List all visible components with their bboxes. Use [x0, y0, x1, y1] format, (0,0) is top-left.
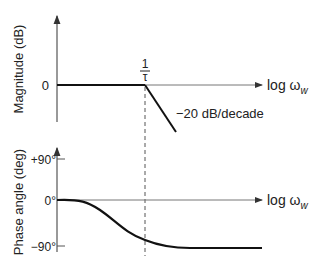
- magnitude-x-label: log ωw: [267, 77, 309, 96]
- magnitude-y-label: Magnitude (dB): [11, 25, 26, 114]
- bode-diagram: Magnitude (dB) 0 1 τ log ωw −20 dB/decad…: [0, 0, 318, 270]
- slope-annotation: −20 dB/decade: [176, 106, 264, 121]
- phase-tick-label-0: 0°: [45, 194, 57, 208]
- magnitude-asymptote-slope: [145, 85, 176, 132]
- magnitude-plot: Magnitude (dB) 0 1 τ log ωw −20 dB/decad…: [11, 16, 309, 132]
- phase-plot: Phase angle (deg) +90° 0° −90° log ωw: [11, 148, 309, 255]
- break-freq-denominator: τ: [143, 70, 148, 84]
- phase-x-label: log ωw: [267, 192, 309, 211]
- magnitude-zero-tick: 0: [42, 78, 49, 93]
- phase-tick-label-plus90: +90°: [31, 153, 56, 167]
- break-freq-numerator: 1: [142, 57, 149, 71]
- phase-y-label: Phase angle (deg): [11, 149, 26, 255]
- phase-curve: [57, 200, 262, 248]
- phase-tick-label-minus90: −90°: [31, 240, 56, 254]
